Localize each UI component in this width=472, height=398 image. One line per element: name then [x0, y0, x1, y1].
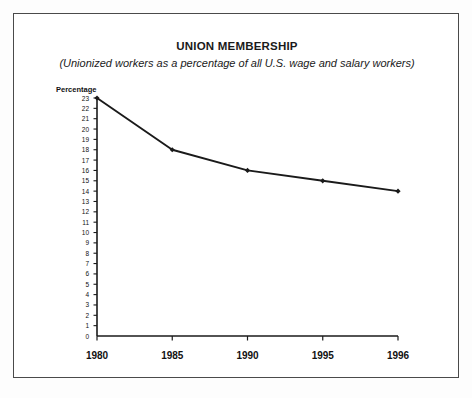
- y-tick-label: 12: [73, 208, 89, 215]
- y-tick-label: 13: [73, 198, 89, 205]
- axes-group: [97, 98, 398, 336]
- y-tick-label: 0: [73, 333, 89, 340]
- data-line: [97, 98, 398, 191]
- x-tick-label: 1990: [225, 350, 271, 361]
- plot-area: Percentage 23222120191817161514131211109…: [14, 14, 460, 379]
- y-tick-label: 10: [73, 229, 89, 236]
- y-tick-label: 17: [73, 157, 89, 164]
- figure-canvas: UNION MEMBERSHIP (Unionized workers as a…: [0, 0, 472, 398]
- x-tick-label: 1980: [74, 350, 120, 361]
- y-tick-label: 4: [73, 291, 89, 298]
- y-tick-label: 22: [73, 105, 89, 112]
- x-tick-label: 1985: [149, 350, 195, 361]
- y-tick-label: 5: [73, 281, 89, 288]
- y-tick-label: 6: [73, 270, 89, 277]
- y-tick-label: 14: [73, 188, 89, 195]
- x-tick-label: 1996: [375, 350, 421, 361]
- y-tick-label: 16: [73, 167, 89, 174]
- y-tick-label: 15: [73, 177, 89, 184]
- y-tick-label: 23: [73, 95, 89, 102]
- data-point-markers: [94, 95, 400, 193]
- x-tick-label: 1995: [300, 350, 346, 361]
- data-point-marker: [395, 189, 400, 194]
- y-tick-label: 2: [73, 312, 89, 319]
- y-tick-label: 20: [73, 126, 89, 133]
- y-tick-label: 11: [73, 219, 89, 226]
- y-tick-label: 9: [73, 239, 89, 246]
- y-tick-label: 21: [73, 115, 89, 122]
- y-tick-label: 7: [73, 260, 89, 267]
- chart-frame: UNION MEMBERSHIP (Unionized workers as a…: [13, 13, 459, 378]
- data-point-marker: [320, 178, 325, 183]
- data-point-marker: [245, 168, 250, 173]
- y-tick-label: 3: [73, 301, 89, 308]
- y-tick-label: 19: [73, 136, 89, 143]
- y-tick-label: 1: [73, 322, 89, 329]
- y-tick-label: 8: [73, 250, 89, 257]
- y-tick-label: 18: [73, 146, 89, 153]
